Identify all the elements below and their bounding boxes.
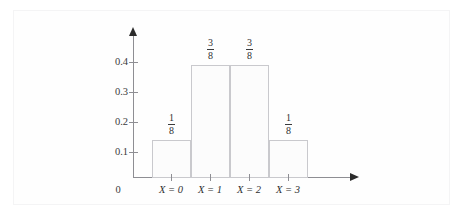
bar-x-0 <box>152 140 191 178</box>
fraction-numerator: 1 <box>152 113 192 124</box>
fraction-numerator: 3 <box>191 38 231 49</box>
y-tick-group-0.3: 0.3 <box>0 87 128 97</box>
fraction-denominator: 8 <box>269 126 309 137</box>
y-tick-mark <box>129 92 138 93</box>
bar-value-label-x-0: 1 8 <box>152 113 192 136</box>
y-axis-arrow-icon <box>129 27 137 36</box>
fraction-numerator: 3 <box>230 38 270 49</box>
bar-x-1 <box>191 65 230 178</box>
y-tick-group-0.4: 0.4 <box>0 57 128 67</box>
bar-value-label-x-2: 3 8 <box>230 38 270 61</box>
x-tick-mark-1 <box>210 174 211 181</box>
y-tick-mark <box>129 62 138 63</box>
y-tick-label: 0.1 <box>100 147 128 157</box>
x-tick-mark-0 <box>171 174 172 181</box>
origin-label: 0 <box>106 184 130 195</box>
fraction-denominator: 8 <box>152 126 192 137</box>
y-tick-label: 0.2 <box>100 117 128 127</box>
x-tick-mark-3 <box>288 174 289 181</box>
y-tick-mark <box>129 152 138 153</box>
x-axis-arrow-icon <box>350 173 359 181</box>
x-tick-label-3: X = 3 <box>258 184 318 195</box>
bar-x-2 <box>230 65 269 178</box>
figure-container: 0.4 0.3 0.2 0.1 0 1 8 3 8 <box>0 0 462 223</box>
fraction-denominator: 8 <box>230 51 270 62</box>
fraction-denominator: 8 <box>191 51 231 62</box>
bar-value-label-x-3: 1 8 <box>269 113 309 136</box>
y-tick-label: 0.3 <box>100 87 128 97</box>
bar-value-label-x-1: 3 8 <box>191 38 231 61</box>
y-tick-label: 0.4 <box>100 57 128 67</box>
x-tick-mark-2 <box>249 174 250 181</box>
y-tick-group-0.1: 0.1 <box>0 147 128 157</box>
fraction-numerator: 1 <box>269 113 309 124</box>
y-tick-group-0.2: 0.2 <box>0 117 128 127</box>
histogram-plot: 0.4 0.3 0.2 0.1 0 1 8 3 8 <box>0 0 462 223</box>
y-axis-line <box>133 34 134 178</box>
y-tick-mark <box>129 122 138 123</box>
bar-x-3 <box>269 140 308 178</box>
